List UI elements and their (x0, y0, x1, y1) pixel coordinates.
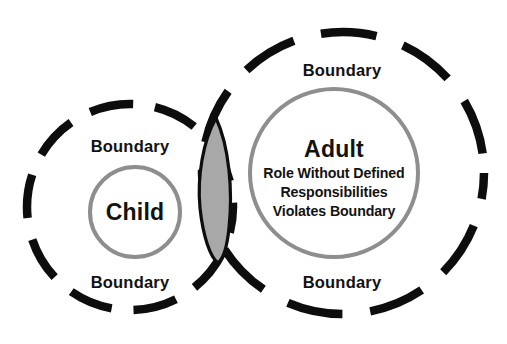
child-inner-label: Child (106, 199, 165, 225)
adult-inner-line-3: Violates Boundary (273, 203, 396, 219)
boundary-venn-diagram: Boundary Child Boundary Boundary Adult R… (0, 0, 507, 344)
adult-boundary-label-top: Boundary (303, 61, 382, 79)
adult-inner-line-2: Responsibilities (280, 184, 387, 200)
adult-inner-line-1: Role Without Defined (263, 165, 404, 181)
child-boundary-label-top: Boundary (91, 137, 170, 155)
adult-boundary-label-bottom: Boundary (303, 273, 382, 291)
child-boundary-label-bottom: Boundary (91, 273, 170, 291)
diagram-canvas: Boundary Child Boundary Boundary Adult R… (0, 0, 507, 344)
adult-inner-title: Adult (304, 136, 364, 162)
